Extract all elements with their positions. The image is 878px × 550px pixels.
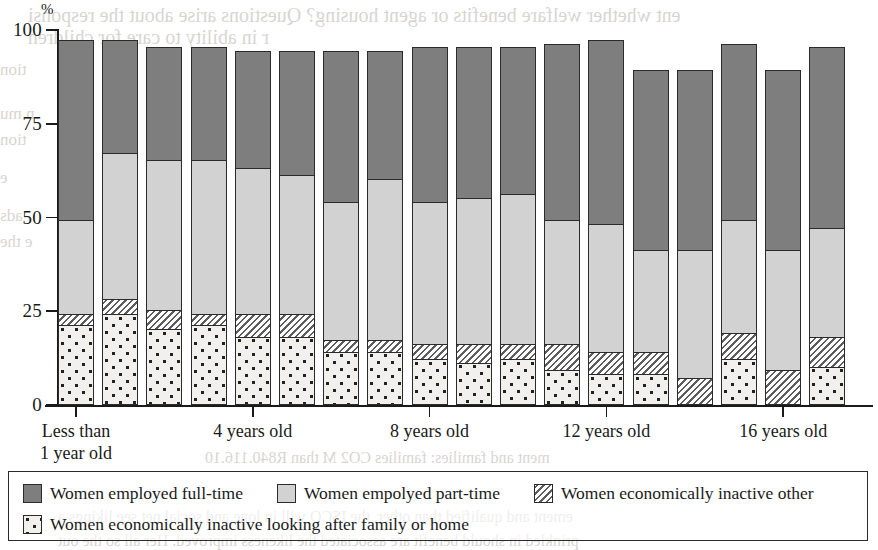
bar-segment-full bbox=[279, 51, 315, 176]
bar-column bbox=[677, 30, 713, 405]
bar-segment-other bbox=[765, 370, 801, 405]
bar-segment-part bbox=[191, 160, 227, 315]
y-axis-tick bbox=[46, 404, 58, 406]
legend-label: Women employed full-time bbox=[50, 484, 243, 503]
bar-segment-other bbox=[235, 314, 271, 338]
y-axis-tick bbox=[46, 29, 58, 31]
bar-segment-part bbox=[809, 227, 845, 337]
bar-segment-family bbox=[58, 325, 94, 405]
x-axis-tick-label: 4 years old bbox=[173, 420, 333, 442]
bar-segment-full bbox=[323, 51, 359, 202]
legend-item[interactable]: Women economically inactive other bbox=[534, 484, 814, 503]
bar-segment-other bbox=[323, 340, 359, 353]
bar-segment-full bbox=[809, 47, 845, 228]
legend-swatch-icon bbox=[277, 484, 296, 503]
bar-segment-full bbox=[146, 47, 182, 161]
x-axis-tick bbox=[606, 406, 608, 417]
bar-segment-family bbox=[279, 336, 315, 405]
bar-segment-full bbox=[102, 40, 138, 154]
bar-column bbox=[456, 30, 492, 405]
bar-segment-full bbox=[500, 47, 536, 195]
bar-column bbox=[412, 30, 448, 405]
bar-segment-family bbox=[191, 325, 227, 405]
bar-segment-part bbox=[588, 224, 624, 353]
bar-segment-part bbox=[412, 201, 448, 345]
bar-segment-full bbox=[721, 44, 757, 222]
bar-segment-family bbox=[633, 374, 669, 405]
bar-segment-full bbox=[456, 47, 492, 198]
legend-swatch-icon bbox=[23, 515, 42, 534]
bar-column bbox=[809, 30, 845, 405]
bar-segment-full bbox=[633, 70, 669, 251]
legend-label: Women economically inactive other bbox=[561, 484, 814, 503]
legend-label: Women economically inactive looking afte… bbox=[50, 515, 469, 534]
y-axis-tick bbox=[46, 310, 58, 312]
x-axis-tick bbox=[252, 406, 254, 417]
x-axis-tick-label: 8 years old bbox=[350, 420, 510, 442]
y-axis-tick bbox=[46, 217, 58, 219]
bar-segment-other bbox=[456, 344, 492, 364]
x-axis-tick-label: 12 years old bbox=[526, 420, 686, 442]
bar-segment-other bbox=[677, 377, 713, 405]
bar-segment-full bbox=[412, 47, 448, 202]
chart-legend: Women employed full-timeWomen empolyed p… bbox=[8, 471, 868, 541]
bar-column bbox=[235, 30, 271, 405]
x-axis-line bbox=[45, 405, 873, 407]
y-axis-tick-label: 0 bbox=[32, 395, 42, 414]
bar-segment-other bbox=[279, 314, 315, 338]
bar-segment-family bbox=[323, 351, 359, 405]
y-axis-tick-label: 75 bbox=[23, 114, 42, 133]
bar-column bbox=[58, 30, 94, 405]
bar-segment-other bbox=[146, 310, 182, 330]
bar-segment-part bbox=[235, 167, 271, 315]
bar-segment-part bbox=[279, 175, 315, 315]
bar-segment-other bbox=[367, 340, 403, 353]
legend-swatch-icon bbox=[23, 484, 42, 503]
y-axis-tick bbox=[46, 123, 58, 125]
bar-segment-part bbox=[323, 201, 359, 341]
bar-segment-part bbox=[677, 250, 713, 379]
bar-segment-family bbox=[412, 359, 448, 405]
legend-row-first: Women employed full-timeWomen empolyed p… bbox=[9, 478, 867, 508]
bar-column bbox=[633, 30, 669, 405]
x-axis-tick-label: Less than 1 year old bbox=[0, 420, 156, 464]
legend-label: Women empolyed part-time bbox=[304, 484, 500, 503]
legend-item[interactable]: Women empolyed part-time bbox=[277, 484, 500, 503]
bar-column bbox=[721, 30, 757, 405]
bar-segment-full bbox=[677, 70, 713, 251]
bar-segment-part bbox=[633, 250, 669, 353]
bar-column bbox=[588, 30, 624, 405]
bar-segment-other bbox=[588, 351, 624, 375]
bar-segment-part bbox=[456, 197, 492, 345]
bar-segment-full bbox=[235, 51, 271, 169]
legend-item[interactable]: Women employed full-time bbox=[23, 484, 243, 503]
bar-segment-part bbox=[367, 179, 403, 342]
bar-segment-other bbox=[809, 336, 845, 367]
y-axis-tick-label: 100 bbox=[13, 20, 42, 39]
bar-segment-part bbox=[58, 220, 94, 315]
bar-segment-full bbox=[588, 40, 624, 225]
x-axis-tick bbox=[782, 406, 784, 417]
bar-segment-full bbox=[765, 70, 801, 251]
bar-segment-part bbox=[721, 220, 757, 334]
bar-segment-other bbox=[58, 314, 94, 327]
bar-column bbox=[544, 30, 580, 405]
bar-segment-full bbox=[191, 47, 227, 161]
bar-segment-family bbox=[235, 336, 271, 405]
legend-item[interactable]: Women economically inactive looking afte… bbox=[23, 515, 469, 534]
bar-column bbox=[765, 30, 801, 405]
bar-segment-family bbox=[456, 362, 492, 405]
bar-column bbox=[323, 30, 359, 405]
bar-segment-part bbox=[544, 220, 580, 345]
bar-segment-other bbox=[633, 351, 669, 375]
legend-row-second: Women economically inactive looking afte… bbox=[9, 509, 867, 539]
plot-area bbox=[58, 30, 870, 405]
x-axis-tick bbox=[75, 406, 77, 417]
x-axis-tick-label: 16 years old bbox=[703, 420, 863, 442]
bar-segment-other bbox=[544, 344, 580, 372]
y-axis-unit-label: % bbox=[41, 2, 54, 17]
y-axis-tick-label: 25 bbox=[23, 301, 42, 320]
legend-swatch-icon bbox=[534, 484, 553, 503]
bar-segment-part bbox=[500, 194, 536, 345]
